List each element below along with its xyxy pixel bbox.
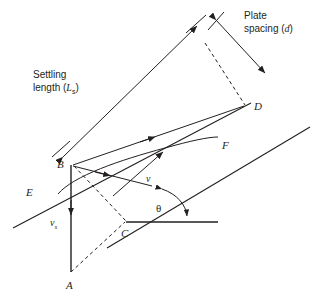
dashed-construction-bc	[74, 166, 126, 221]
point-label-b: B	[57, 158, 64, 170]
upper-plate-line	[107, 127, 310, 248]
figure-canvas: Settling length (Ls) Plate spacing (d) v…	[0, 0, 320, 297]
point-label-e: E	[25, 186, 33, 198]
point-label-a: A	[65, 279, 73, 291]
settling-velocity-label: vs	[50, 217, 57, 231]
plate-spacing-label-line2: spacing (d)	[244, 23, 293, 34]
dashed-construction-ac	[71, 222, 125, 272]
particle-trajectory-curve	[58, 137, 218, 194]
angle-label-theta: θ	[156, 202, 161, 214]
plate-spacing-dimension	[208, 12, 265, 73]
inclined-plate-settler-diagram: Settling length (Ls) Plate spacing (d) v…	[0, 0, 320, 297]
point-label-d: D	[253, 100, 262, 112]
point-label-c: C	[121, 227, 129, 239]
settling-length-label-line1: Settling	[33, 69, 66, 80]
velocity-vector-v	[113, 152, 163, 196]
plate-spacing-label-line1: Plate	[244, 10, 267, 21]
point-label-f: F	[221, 139, 229, 151]
dashed-construction-top	[205, 43, 245, 105]
lower-plate-line	[13, 103, 251, 228]
velocity-label-v: v	[146, 173, 151, 184]
settling-length-label-line2: length (Ls)	[33, 82, 79, 95]
